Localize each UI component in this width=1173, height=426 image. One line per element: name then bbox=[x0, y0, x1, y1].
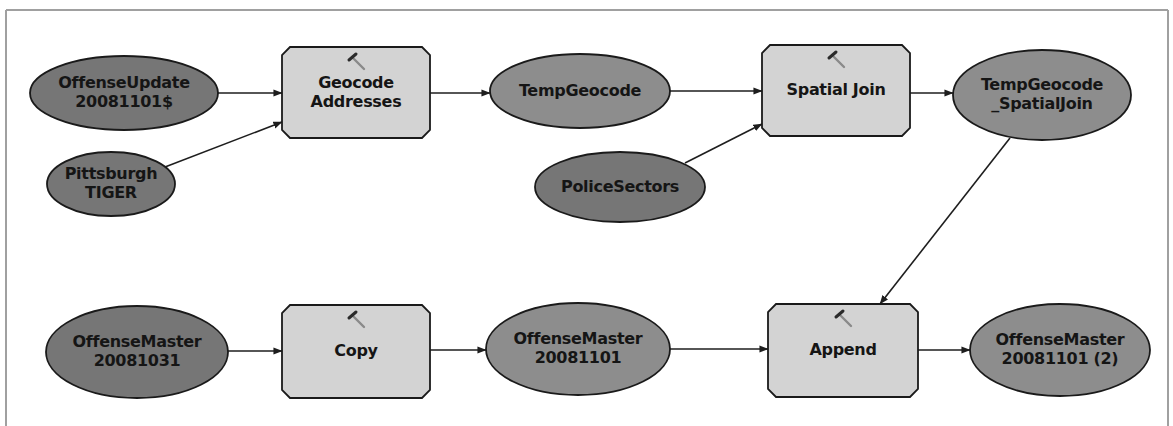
node-label-line: OffenseMaster bbox=[514, 329, 643, 348]
node-label-line: 20081101 bbox=[535, 348, 622, 367]
connector-police-sectors-to-spatial-join[interactable] bbox=[685, 124, 762, 163]
data-node-temp-geocode-spatialjoin[interactable]: TempGeocode_SpatialJoin bbox=[953, 50, 1131, 140]
tool-node-append[interactable]: Append bbox=[768, 304, 918, 397]
data-node-offense-master-20081101-2[interactable]: OffenseMaster20081101 (2) bbox=[970, 304, 1150, 396]
node-label-line: Pittsburgh bbox=[65, 164, 158, 183]
node-label-line: Addresses bbox=[311, 92, 402, 111]
node-label-line: 20081101 (2) bbox=[1002, 349, 1119, 368]
node-label-line: Geocode bbox=[318, 73, 394, 92]
data-node-offense-master-20081101[interactable]: OffenseMaster20081101 bbox=[486, 303, 670, 395]
tool-node-spatial-join[interactable]: Spatial Join bbox=[762, 45, 910, 136]
node-label-line: OffenseMaster bbox=[996, 330, 1125, 349]
model-diagram-canvas: OffenseUpdate20081101$PittsburghTIGERGeo… bbox=[0, 0, 1173, 426]
tool-node-geocode-addresses[interactable]: GeocodeAddresses bbox=[282, 47, 430, 138]
data-node-pittsburgh-tiger[interactable]: PittsburghTIGER bbox=[47, 152, 175, 216]
node-label-line: PoliceSectors bbox=[561, 177, 679, 196]
node-label-line: TIGER bbox=[85, 183, 137, 202]
node-label-line: Spatial Join bbox=[787, 80, 886, 99]
connector-pittsburgh-tiger-to-geocode-addresses[interactable] bbox=[165, 122, 282, 167]
node-label-line: 20081101$ bbox=[75, 92, 173, 111]
tool-node-copy[interactable]: Copy bbox=[282, 305, 430, 398]
data-node-temp-geocode[interactable]: TempGeocode bbox=[490, 54, 670, 128]
connector-temp-geocode-spatialjoin-to-append[interactable] bbox=[880, 138, 1010, 304]
node-label-line: OffenseMaster bbox=[73, 332, 202, 351]
data-node-police-sectors[interactable]: PoliceSectors bbox=[535, 152, 705, 222]
node-label-line: _SpatialJoin bbox=[991, 94, 1092, 113]
node-label-line: Append bbox=[809, 340, 876, 359]
data-node-offense-update[interactable]: OffenseUpdate20081101$ bbox=[30, 56, 218, 130]
node-label-line: TempGeocode bbox=[519, 81, 642, 100]
node-label-line: OffenseUpdate bbox=[58, 73, 190, 92]
node-label-line: TempGeocode bbox=[981, 75, 1104, 94]
nodes: OffenseUpdate20081101$PittsburghTIGERGeo… bbox=[30, 45, 1150, 398]
node-label-line: Copy bbox=[334, 341, 378, 360]
node-label-line: 20081031 bbox=[94, 351, 181, 370]
data-node-offense-master-20081031[interactable]: OffenseMaster20081031 bbox=[46, 306, 228, 398]
